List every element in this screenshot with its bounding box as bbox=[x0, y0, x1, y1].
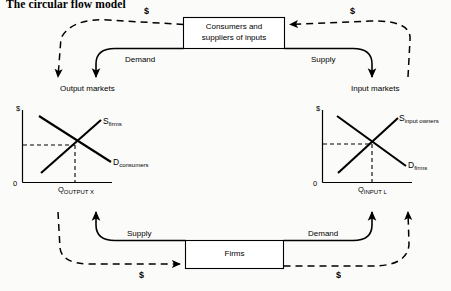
input-markets-label: Input markets bbox=[351, 85, 399, 93]
flow-label-supply-bottom: Supply bbox=[127, 230, 151, 238]
input-chart-origin-label: 0 bbox=[313, 180, 317, 188]
money-label-bottom-left: $ bbox=[139, 271, 144, 280]
output-supply-curve bbox=[41, 120, 101, 173]
circular-flow-vector-layer bbox=[0, 0, 451, 291]
money-label-top-right: $ bbox=[350, 7, 355, 16]
page-title: The circular flow model bbox=[6, 0, 126, 11]
households-line-1: Consumers and bbox=[184, 22, 284, 33]
input-supply-curve bbox=[338, 118, 398, 173]
money-label-top-left: $ bbox=[144, 7, 149, 16]
money-flow-bottom-left bbox=[58, 212, 180, 264]
input-supply-curve-label: Sinput owners bbox=[399, 114, 439, 123]
money-flow-bottom-right bbox=[284, 212, 410, 266]
output-supply-curve-label: Sfirms bbox=[103, 117, 122, 126]
households-box-text: Consumers and suppliers of inputs bbox=[184, 22, 284, 43]
diagram-canvas: The circular flow model Consumers and su… bbox=[0, 0, 451, 291]
output-x-axis-symbol: Q bbox=[58, 185, 64, 194]
households-line-2: suppliers of inputs bbox=[184, 33, 284, 44]
output-x-axis-subscript: OUTPUT X bbox=[64, 189, 94, 195]
input-supply-subscript: input owners bbox=[405, 118, 439, 124]
input-x-axis-symbol: Q bbox=[358, 185, 364, 194]
output-chart-x-axis-label: QOUTPUT X bbox=[58, 186, 94, 194]
flow-label-demand-top: Demand bbox=[125, 56, 155, 64]
output-chart-y-axis-label: $ bbox=[16, 105, 20, 113]
output-markets-label: Output markets bbox=[60, 85, 115, 93]
output-demand-curve-label: Dconsumers bbox=[113, 158, 148, 167]
input-demand-curve-label: Dfirms bbox=[408, 161, 427, 170]
output-supply-symbol: S bbox=[103, 116, 109, 126]
output-supply-subscript: firms bbox=[109, 121, 122, 127]
input-demand-subscript: firms bbox=[414, 165, 427, 171]
flow-label-demand-bottom: Demand bbox=[308, 230, 338, 238]
money-label-bottom-right: $ bbox=[336, 271, 341, 280]
input-chart-x-axis-label: QINPUT L bbox=[358, 186, 387, 194]
output-demand-subscript: consumers bbox=[119, 162, 148, 168]
input-chart-y-axis-label: $ bbox=[316, 105, 320, 113]
input-supply-symbol: S bbox=[399, 113, 405, 123]
output-chart-origin-label: 0 bbox=[13, 180, 17, 188]
flow-label-supply-top: Supply bbox=[311, 56, 335, 64]
firms-box-text: Firms bbox=[186, 249, 283, 260]
input-x-axis-subscript: INPUT L bbox=[364, 189, 387, 195]
